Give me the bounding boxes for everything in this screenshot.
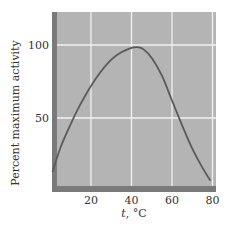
x-tick-label: 40 bbox=[125, 194, 139, 207]
x-tick-label: 80 bbox=[206, 194, 220, 207]
x-axis-label: t, °C bbox=[121, 207, 146, 220]
y-tick-label: 50 bbox=[35, 112, 49, 125]
y-tick-label: 100 bbox=[28, 39, 49, 52]
x-axis-label-unit: , °C bbox=[126, 207, 147, 220]
bottom-axis-band bbox=[52, 186, 216, 192]
x-tick-labels: 20406080 bbox=[84, 194, 220, 207]
y-axis-label: Percent maximum activity bbox=[9, 39, 22, 185]
enzyme-activity-chart: 50100 20406080 Percent maximum activity … bbox=[0, 0, 234, 232]
chart-canvas: 50100 20406080 Percent maximum activity … bbox=[0, 0, 234, 232]
x-tick-label: 20 bbox=[84, 194, 98, 207]
x-tick-label: 60 bbox=[165, 194, 179, 207]
plot-area bbox=[52, 12, 216, 192]
plot-background bbox=[52, 12, 216, 192]
y-tick-labels: 50100 bbox=[28, 39, 49, 125]
